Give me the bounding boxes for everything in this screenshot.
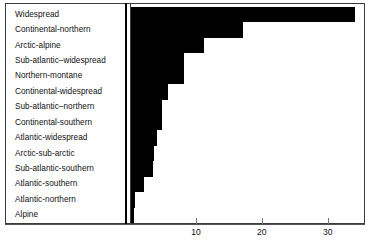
plot-area — [131, 4, 364, 223]
category-label: Atlantic-northern — [15, 195, 76, 205]
category-label: Widespread — [15, 10, 59, 20]
category-label: Arctic-alpine — [15, 41, 61, 51]
category-label: Northern-montane — [15, 71, 82, 81]
category-label: Continental-widespread — [15, 87, 102, 97]
chart-frame: WidespreadContinental-northernArctic-alp… — [5, 3, 365, 224]
category-label: Alpine — [15, 210, 38, 220]
bar — [131, 84, 168, 99]
category-label: Sub-atlantic-southern — [15, 164, 94, 174]
bar — [131, 130, 157, 145]
bar — [131, 22, 243, 37]
x-axis-tick-label: 20 — [257, 227, 266, 237]
category-label-column: WidespreadContinental-northernArctic-alp… — [6, 4, 131, 223]
bar — [131, 146, 154, 161]
bar — [131, 53, 184, 68]
category-label: Atlantic-widespread — [15, 133, 87, 143]
x-axis-tick — [262, 218, 263, 224]
bar — [131, 161, 153, 176]
category-label: Continental-northern — [15, 25, 91, 35]
bar — [131, 208, 134, 223]
category-label: Continental-southern — [15, 118, 92, 128]
category-label: Sub-atlantic–widespread — [15, 56, 106, 66]
x-axis-tick-label: 10 — [191, 227, 200, 237]
bar — [131, 38, 204, 53]
x-axis-tick-label: 30 — [323, 227, 332, 237]
category-label: Sub-atlantic–northern — [15, 102, 94, 112]
value-axis-baseline — [125, 3, 127, 224]
bar — [131, 192, 135, 207]
category-label: Arctic-sub-arctic — [15, 149, 75, 159]
bar — [131, 69, 184, 84]
x-axis-tick — [328, 218, 329, 224]
bar — [131, 7, 355, 22]
bar — [131, 100, 162, 115]
bar-chart-figure: WidespreadContinental-northernArctic-alp… — [0, 0, 372, 252]
x-axis-line — [5, 224, 365, 225]
bar — [131, 115, 162, 130]
bar — [131, 177, 144, 192]
category-label: Atlantic-southern — [15, 179, 77, 189]
x-axis-tick — [196, 218, 197, 224]
